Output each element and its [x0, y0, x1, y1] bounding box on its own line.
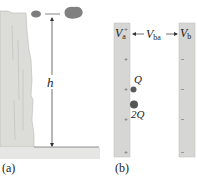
height-label: h: [47, 76, 54, 89]
plate-b-potential-label: Vb: [180, 27, 191, 41]
rock-large-icon: [64, 7, 82, 19]
rock-small-icon: [31, 11, 41, 18]
cliff-drawing: [0, 11, 34, 147]
charge-2q-label: 2Q: [131, 109, 144, 120]
panel-b-label: (b): [115, 162, 129, 174]
charge-q-icon: [131, 87, 137, 93]
plate-a: [114, 23, 130, 157]
potential-difference-label: Vba: [146, 28, 161, 42]
ground: [0, 147, 100, 159]
plate-a-potential-label: Va: [115, 27, 126, 41]
plate-b: [179, 23, 195, 157]
panel-a-label: (a): [2, 162, 15, 174]
charge-q-label: Q: [134, 74, 142, 85]
figure-canvas: [0, 0, 197, 179]
